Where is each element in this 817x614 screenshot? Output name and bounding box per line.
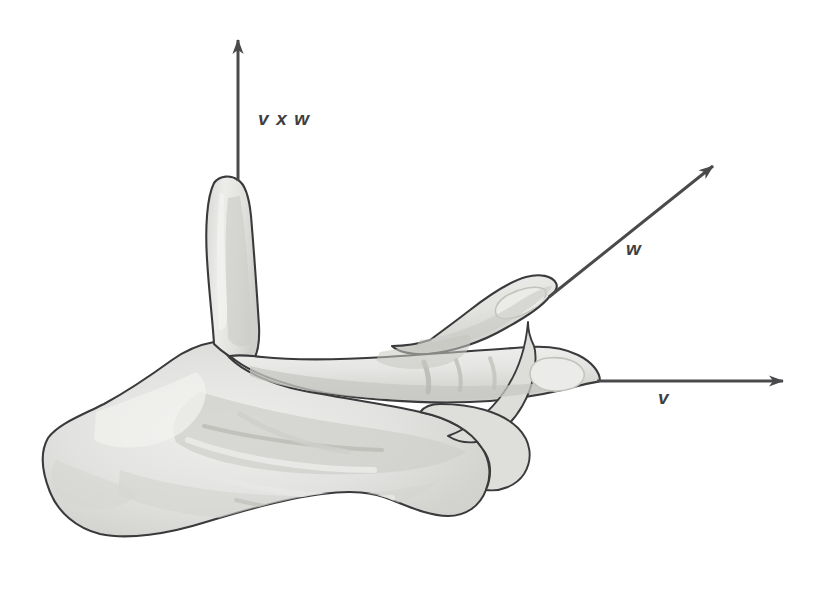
- vector-arrows: [238, 40, 783, 381]
- right-hand-rule-figure: v x w w v: [0, 0, 817, 614]
- vector-label-w: w: [626, 238, 642, 260]
- vector-arrow-w: [549, 166, 713, 297]
- index-fingertip-nail: [530, 358, 584, 391]
- hand-illustration: [43, 177, 600, 537]
- vector-label-v-cross-w: v x w: [258, 108, 310, 130]
- vector-label-v: v: [658, 387, 670, 409]
- figure-canvas: [0, 0, 817, 614]
